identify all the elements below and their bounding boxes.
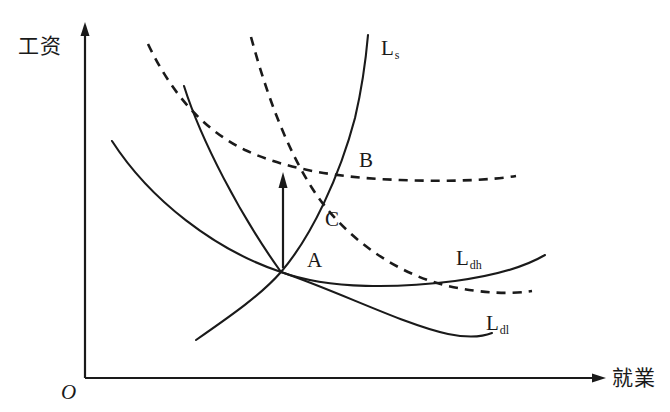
point-label-b: B <box>359 150 373 171</box>
wage-employment-diagram: 工资 就業 O Ls Ldh Ldl A B C <box>0 0 670 412</box>
curve-label-ldh-base: L <box>456 246 469 270</box>
curve-dashed-demand-upper <box>148 44 516 181</box>
origin-label: O <box>61 382 76 403</box>
y-axis-label: 工资 <box>18 36 62 57</box>
diagram-canvas <box>0 0 670 412</box>
curve-label-labour-supply: Ls <box>381 38 399 59</box>
axes-group <box>81 22 607 383</box>
curve-label-ls-base: L <box>381 36 394 60</box>
wage-increase-arrow <box>279 172 288 268</box>
wage-arrow-head <box>279 172 288 188</box>
point-label-a: A <box>307 250 322 271</box>
curve-label-labour-demand-high: Ldh <box>456 248 481 269</box>
curve-label-ls-sub: s <box>395 48 400 62</box>
curve-dashed-demand-lower <box>251 37 532 293</box>
y-axis-arrowhead <box>81 22 90 36</box>
curve-label-labour-demand-low: Ldl <box>486 313 508 334</box>
curve-label-ldh-sub: dh <box>470 258 482 272</box>
curve-labour-demand-high <box>184 86 545 286</box>
point-label-c: C <box>325 209 339 230</box>
x-axis-arrowhead <box>592 374 606 383</box>
curve-labour-demand-low <box>112 141 492 337</box>
curve-label-ldl-base: L <box>486 311 499 335</box>
x-axis-label: 就業 <box>612 368 656 389</box>
curve-label-ldl-sub: dl <box>500 323 509 337</box>
